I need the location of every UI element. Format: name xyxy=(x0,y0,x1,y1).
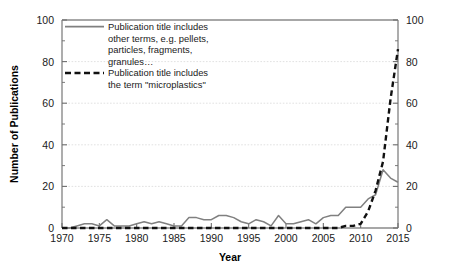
x-tick-label: 1995 xyxy=(237,232,261,244)
x-tick-label: 2010 xyxy=(349,232,373,244)
y2-tick-label: 80 xyxy=(406,56,418,68)
legend-label-line: particles, fragments, xyxy=(108,44,192,55)
y2-tick-label: 40 xyxy=(406,139,418,151)
y2-tick-label: 0 xyxy=(406,222,412,234)
y-tick-label: 80 xyxy=(42,56,54,68)
legend-label-line: Publication title includes xyxy=(108,21,208,32)
y2-tick-label: 20 xyxy=(406,180,418,192)
x-tick-label: 1990 xyxy=(200,232,224,244)
publications-line-chart: 1970197519801985199019952000200520102015… xyxy=(0,0,461,266)
chart-canvas: 1970197519801985199019952000200520102015… xyxy=(0,0,461,266)
legend-label-line: granules… xyxy=(108,56,153,67)
y2-tick-label: 100 xyxy=(406,14,424,26)
legend-label-line: other terms, e.g. pellets, xyxy=(108,33,209,44)
y-tick-label: 0 xyxy=(48,222,54,234)
x-tick-label: 1980 xyxy=(125,232,149,244)
x-axis-tick-labels: 1970197519801985199019952000200520102015 xyxy=(50,232,410,244)
y-tick-label: 40 xyxy=(42,139,54,151)
y-tick-label: 100 xyxy=(36,14,54,26)
x-tick-label: 1985 xyxy=(162,232,186,244)
legend-label-line: Publication title includes xyxy=(108,67,208,78)
y-axis-title: Number of Publications xyxy=(8,65,20,183)
series-line-0 xyxy=(62,170,398,228)
chart-legend: Publication title includesother terms, e… xyxy=(65,21,209,90)
x-tick-label: 2000 xyxy=(274,232,298,244)
y-tick-label: 60 xyxy=(42,97,54,109)
y-axis-tick-labels: 020406080100 xyxy=(36,14,54,234)
x-axis-title: Year xyxy=(219,251,241,263)
x-tick-label: 1975 xyxy=(88,232,112,244)
secondary-y-axis-tick-labels: 020406080100 xyxy=(406,14,424,234)
y-tick-label: 20 xyxy=(42,180,54,192)
x-tick-label: 2005 xyxy=(312,232,336,244)
y2-tick-label: 60 xyxy=(406,97,418,109)
legend-label-line: the term "microplastics" xyxy=(108,79,206,90)
